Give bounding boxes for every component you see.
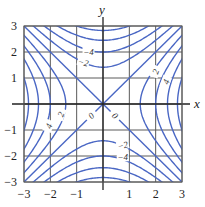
x-tick-label: −3 (18, 187, 31, 201)
contour-label: −4 (83, 47, 94, 57)
x-tick-label: −1 (70, 187, 83, 201)
contour-plot: −3−2−1123321−1−2−3 −4−2242400−2−4 x y (0, 0, 205, 207)
y-axis-label: y (97, 2, 105, 17)
x-tick-label: 3 (179, 187, 185, 201)
x-axis-label: x (193, 96, 200, 111)
y-tick-label: 1 (11, 71, 17, 85)
tick-labels: −3−2−1123321−1−2−3 (4, 19, 185, 201)
y-tick-label: −3 (4, 175, 17, 189)
contour-label: −4 (117, 152, 128, 162)
x-tick-label: −2 (44, 187, 57, 201)
y-tick-label: −1 (4, 123, 17, 137)
y-tick-label: 2 (11, 45, 17, 59)
x-tick-label: 1 (126, 187, 132, 201)
x-tick-label: 2 (153, 187, 159, 201)
y-tick-label: 3 (11, 19, 17, 33)
y-tick-label: −2 (4, 149, 17, 163)
